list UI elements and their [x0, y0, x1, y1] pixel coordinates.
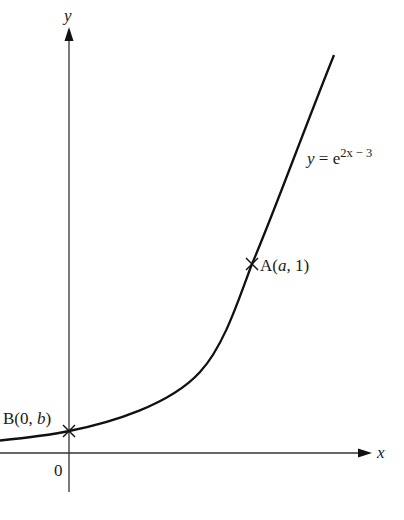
curve-exponent: 2x − 3	[340, 146, 372, 160]
point-a-label: A(a, 1)	[260, 256, 309, 275]
point-a-marker-icon	[246, 258, 258, 270]
graph-canvas: y x 0 y = e2x − 3 A(a, 1) B(0, b)	[0, 0, 404, 520]
y-axis-arrow-icon	[65, 27, 74, 41]
x-axis-arrow-icon	[358, 449, 372, 458]
curve-equation-label: y = e2x − 3	[305, 146, 372, 168]
origin-label: 0	[54, 461, 63, 480]
x-axis-label: x	[376, 443, 385, 462]
y-axis-label: y	[62, 6, 72, 25]
exponential-curve	[0, 55, 334, 441]
point-b-label: B(0, b)	[3, 409, 51, 428]
